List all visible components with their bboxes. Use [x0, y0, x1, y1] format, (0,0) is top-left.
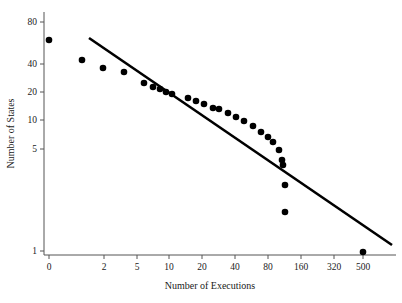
data-point-13[interactable] — [216, 106, 223, 113]
data-point-9[interactable] — [185, 95, 192, 102]
x-tick-label-5: 40 — [230, 262, 240, 272]
y-tick-label-3: 10 — [28, 115, 38, 125]
data-point-7[interactable] — [163, 89, 170, 96]
y-axis-title: Number of States — [5, 98, 16, 168]
data-point-18[interactable] — [258, 129, 265, 136]
y-tick-label-5: 1 — [32, 246, 37, 256]
data-point-3[interactable] — [121, 69, 128, 76]
chart-container: 804020105102510204080160320500Number of … — [0, 0, 402, 303]
data-point-19[interactable] — [265, 134, 272, 141]
x-tick-label-8: 320 — [327, 262, 342, 272]
data-point-12[interactable] — [210, 105, 217, 112]
data-point-10[interactable] — [193, 98, 200, 105]
x-tick-label-9: 500 — [356, 262, 371, 272]
data-point-8[interactable] — [169, 91, 176, 98]
data-point-23[interactable] — [280, 162, 287, 169]
data-point-21[interactable] — [276, 147, 283, 154]
data-point-6[interactable] — [157, 86, 164, 93]
data-point-26[interactable] — [360, 249, 367, 256]
x-tick-label-1: 2 — [102, 262, 107, 272]
data-point-24[interactable] — [282, 182, 289, 189]
y-tick-label-0: 80 — [28, 17, 38, 27]
data-point-25[interactable] — [282, 209, 289, 216]
x-tick-label-4: 20 — [197, 262, 207, 272]
y-tick-label-4: 5 — [32, 144, 37, 154]
scatter-plot: 804020105102510204080160320500Number of … — [0, 0, 402, 303]
data-point-0[interactable] — [46, 37, 53, 44]
data-point-5[interactable] — [150, 84, 157, 91]
data-point-17[interactable] — [250, 123, 257, 130]
data-point-16[interactable] — [241, 118, 248, 125]
trend-line — [89, 38, 392, 245]
data-point-11[interactable] — [201, 101, 208, 108]
data-point-20[interactable] — [270, 139, 277, 146]
y-tick-label-1: 40 — [28, 59, 38, 69]
data-point-1[interactable] — [79, 57, 86, 64]
y-tick-label-2: 20 — [28, 87, 38, 97]
x-tick-label-7: 160 — [294, 262, 309, 272]
data-point-15[interactable] — [233, 114, 240, 121]
data-point-2[interactable] — [100, 65, 107, 72]
x-tick-label-6: 80 — [263, 262, 273, 272]
x-axis-title: Number of Executions — [165, 280, 256, 291]
axis-spines — [44, 12, 396, 255]
x-tick-label-2: 5 — [135, 262, 140, 272]
x-tick-label-0: 0 — [47, 262, 52, 272]
data-point-4[interactable] — [141, 80, 148, 87]
data-point-14[interactable] — [225, 110, 232, 117]
x-tick-label-3: 10 — [164, 262, 174, 272]
